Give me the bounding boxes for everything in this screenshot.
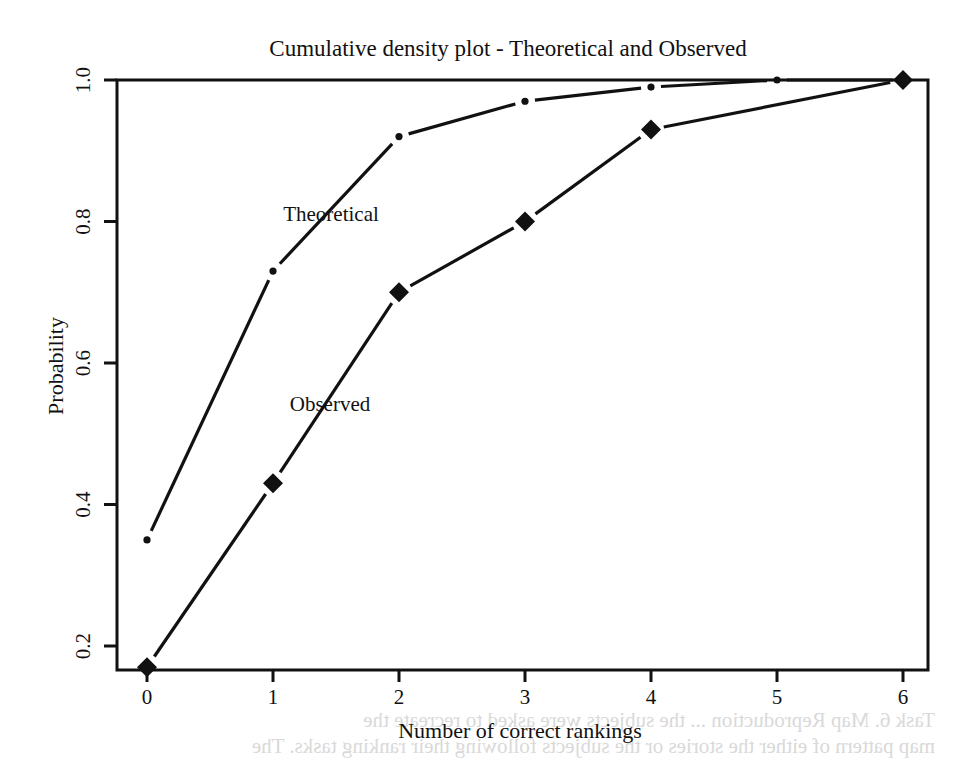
diamond-marker-icon [263,473,283,493]
series-segment [410,228,513,286]
series-theoretical [143,76,906,543]
x-tick-label: 5 [772,685,783,709]
chart-title: Cumulative density plot - Theoretical an… [269,36,747,61]
diamond-marker-icon [137,657,157,677]
dot-marker-icon [773,76,780,83]
dot-marker-icon [269,267,276,274]
dot-marker-icon [143,536,150,543]
y-axis-label: Probability [43,317,68,415]
series-observed [137,70,913,677]
diamond-marker-icon [515,212,535,232]
series-segment [409,104,516,134]
x-tick-label: 6 [898,685,909,709]
diamond-marker-icon [389,282,409,302]
series-segment [151,280,269,531]
cumulative-density-chart: Cumulative density plot - Theoretical an… [0,0,972,777]
diamond-marker-icon [641,120,661,140]
diamond-marker-icon [893,70,913,90]
x-tick-label: 1 [268,685,279,709]
series-segment [536,137,641,214]
x-tick-label: 4 [646,685,657,709]
y-tick-label: 0.8 [71,208,95,234]
y-tick-label: 0.2 [71,633,95,659]
theoretical-series-label: Theoretical [283,202,379,226]
x-tick-label: 3 [520,685,531,709]
x-tick-label: 0 [142,685,153,709]
series-segment [664,83,890,128]
x-tick-label: 2 [394,685,405,709]
y-tick-label: 0.6 [71,350,95,376]
series-segment [280,303,392,472]
series-segment [535,88,641,100]
x-axis: 0123456 [142,670,909,709]
y-axis: 0.20.40.60.81.0 [71,67,117,659]
dot-marker-icon [521,98,528,105]
dot-marker-icon [395,133,402,140]
y-tick-label: 1.0 [71,67,95,93]
plot-frame [117,80,928,670]
series-segment [154,494,265,656]
y-tick-label: 0.4 [71,491,95,518]
x-axis-label: Number of correct rankings [398,718,642,743]
observed-series-label: Observed [290,392,371,416]
dot-marker-icon [647,83,654,90]
